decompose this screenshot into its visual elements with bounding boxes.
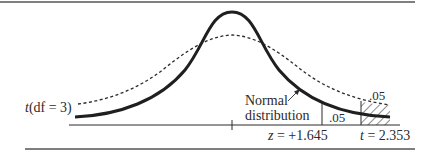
t-curve-label: t(df = 3) <box>25 100 72 116</box>
t-curve-label-df: (df = 3) <box>29 100 72 116</box>
normal-label-line1: Normal <box>245 93 288 108</box>
t-tail-area-label: .05 <box>369 88 385 103</box>
t-vs-normal-diagram: t(df = 3) Normal distribution .05 .05 z … <box>0 0 430 153</box>
normal-tail-area-label: .05 <box>329 110 345 125</box>
normal-distribution-curve <box>75 12 390 117</box>
z-critical-label: z = +1.645 <box>267 128 328 143</box>
t-critical-label: t = 2.353 <box>360 128 410 143</box>
t-distribution-curve <box>78 35 390 105</box>
t-value: = 2.353 <box>364 128 410 143</box>
normal-label-line2: distribution <box>245 108 310 123</box>
z-value: = +1.645 <box>273 128 327 143</box>
